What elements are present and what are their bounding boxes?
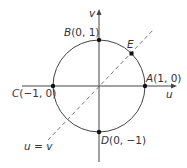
label-d-name: D (101, 134, 109, 146)
label-c: C(−1, 0) (12, 87, 56, 99)
u-axis-label: u (166, 88, 173, 100)
label-a-name: A (145, 72, 153, 84)
label-d: D(0, −1) (101, 134, 146, 146)
point-e (130, 52, 134, 56)
line-label: u = v (24, 140, 53, 152)
line-u-equals-v (48, 29, 154, 140)
label-a: A(1, 0) (145, 72, 181, 84)
label-b-name: B (64, 26, 71, 38)
unit-circle-diagram: v u B(0, 1) A(1, 0) C(−1, 0) D(0, −1) E … (0, 0, 187, 168)
label-b: B(0, 1) (64, 26, 99, 38)
v-axis-label: v (89, 7, 96, 19)
label-b-coords: (0, 1) (71, 26, 99, 38)
point-b (97, 38, 101, 42)
label-d-coords: (0, −1) (109, 134, 146, 146)
v-axis-arrow-icon (97, 9, 102, 15)
label-a-coords: (1, 0) (153, 72, 181, 84)
label-e: E (127, 38, 134, 50)
point-a (143, 84, 147, 88)
label-c-coords: (−1, 0) (19, 87, 56, 99)
